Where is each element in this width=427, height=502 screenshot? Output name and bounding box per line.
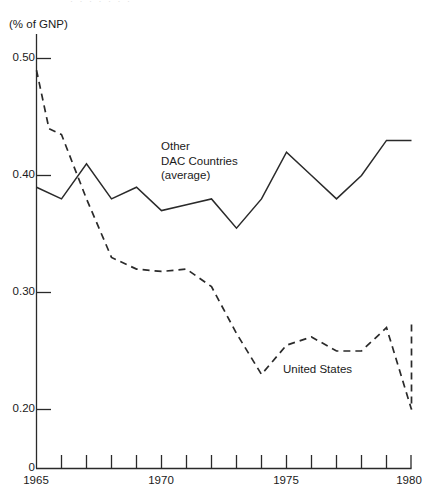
y-tick-label-040: 0.40 — [1, 168, 35, 180]
x-axis-ticks — [62, 455, 387, 468]
axis-lines — [36, 34, 412, 469]
y-tick-label-020: 0.20 — [1, 402, 35, 414]
y-tick-label-zero: 0 — [1, 461, 35, 473]
x-tick-label-1970: 1970 — [141, 474, 181, 486]
y-tick-label-050: 0.50 — [1, 51, 35, 63]
series-annotation-united-states: United States — [283, 362, 352, 377]
x-tick-label-1965: 1965 — [16, 474, 56, 486]
x-tick-label-1980: 1980 — [389, 474, 427, 486]
annotation-dac-line3: (average) — [161, 168, 238, 183]
x-tick-label-1975: 1975 — [266, 474, 306, 486]
annotation-dac-line2: DAC Countries — [161, 154, 238, 169]
series-annotation-other-dac-countries: Other DAC Countries (average) — [161, 139, 238, 183]
annotation-dac-line1: Other — [161, 139, 238, 154]
y-tick-label-030: 0.30 — [1, 285, 35, 297]
series-line-united-states — [37, 70, 412, 409]
y-axis-ticks — [36, 59, 51, 410]
